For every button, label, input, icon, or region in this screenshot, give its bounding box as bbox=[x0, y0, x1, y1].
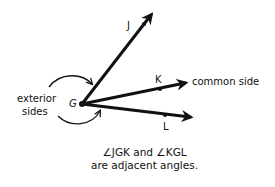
caption-line-1: ∠JGK and ∠KGL bbox=[0, 146, 275, 159]
exterior-side-lower-arrow bbox=[58, 111, 100, 124]
label-exterior: exterior bbox=[17, 93, 56, 104]
vertex-point-g bbox=[79, 101, 85, 107]
label-l: L bbox=[163, 121, 169, 132]
label-common-side: common side bbox=[192, 76, 259, 87]
label-sides: sides bbox=[22, 106, 48, 117]
label-j: J bbox=[127, 20, 130, 31]
point-k bbox=[158, 87, 162, 91]
label-k: K bbox=[155, 74, 162, 85]
ray-gl bbox=[82, 104, 190, 117]
point-l bbox=[163, 113, 167, 117]
label-g: G bbox=[69, 98, 77, 109]
point-j bbox=[142, 22, 146, 26]
caption-line-2: are adjacent angles. bbox=[0, 159, 275, 172]
exterior-side-upper-arrow bbox=[49, 76, 92, 87]
